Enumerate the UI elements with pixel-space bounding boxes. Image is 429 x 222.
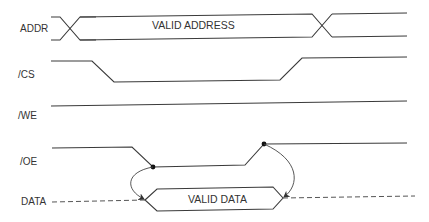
signal-label-we: /WE [18, 110, 37, 121]
arrow-oe-rise-to-data [264, 144, 294, 197]
signal-label-oe: /OE [20, 156, 38, 167]
arrow-oe-fall-to-data [131, 167, 153, 199]
addr-valid-label: VALID ADDRESS [152, 19, 235, 31]
signal-label-addr: ADDR [20, 23, 48, 34]
cs-waveform [51, 57, 407, 82]
signal-label-cs: /CS [18, 69, 35, 80]
data-valid-label: VALID DATA [188, 193, 247, 205]
timing-diagram: ADDR /CS /WE /OE DATA VALID ADDRESS VALI… [0, 0, 429, 222]
signal-label-data: DATA [21, 196, 47, 207]
addr-waveform: VALID ADDRESS [51, 13, 407, 40]
we-waveform [51, 101, 407, 106]
oe-waveform [52, 143, 407, 167]
data-waveform: VALID DATA [52, 187, 415, 211]
